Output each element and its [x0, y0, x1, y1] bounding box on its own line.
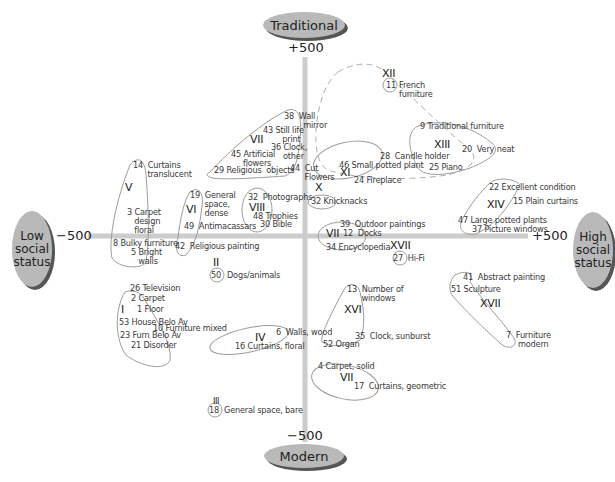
item-18-number: 18 — [209, 406, 219, 415]
pole-modern-label: Modern — [280, 449, 329, 464]
cluster-label-xiii: XIII — [434, 139, 450, 150]
item-12-label: 12 Docks — [343, 229, 382, 238]
item-24-label: 24 Fireplace — [354, 176, 401, 185]
cluster-label-xvii-right: XVII — [480, 298, 500, 309]
item-30-label: 30 Bible — [260, 220, 292, 229]
item-34-label: 34 Encyclopedia — [326, 243, 390, 252]
pole-modern: Modern — [264, 444, 344, 468]
item-41-label: 41 Abstract painting — [463, 273, 545, 282]
cluster-label-xiv: XIV — [487, 199, 504, 210]
item-42-label: 42 Religious painting — [175, 242, 259, 251]
pole-high-line2: social — [576, 244, 610, 257]
axis-value-left: −500 — [56, 228, 92, 243]
item-1-label: 1 Floor — [137, 305, 164, 314]
cluster-label-xvi: XVI — [344, 304, 361, 315]
item-35-label: 35 Clock, sunburst — [355, 332, 430, 341]
cluster-label-vii-upper: VII — [250, 134, 263, 145]
item-26-label: 26 Television — [130, 284, 180, 293]
pole-low-line1: Low — [20, 230, 44, 243]
item-16-label: 16 Curtains, floral — [235, 342, 304, 351]
item-37-label: 37 Picture windows — [472, 225, 548, 234]
item-5-label: 5 Bright walls — [131, 248, 162, 266]
item-46-label: 46 Small potted plant — [339, 161, 424, 170]
item-13-label: 13 Number of windows — [347, 285, 403, 303]
item-11-number: 11 — [386, 81, 396, 90]
pole-high-line1: High — [579, 231, 607, 244]
cluster-label-ii: II — [213, 257, 219, 268]
cluster-label-v: V — [125, 182, 132, 193]
item-49-label: 49 Antimacassars — [184, 222, 256, 231]
item-11-label: French furniture — [399, 81, 433, 99]
item-36-label: 36 Clock, other — [271, 143, 307, 161]
item-25-label: 25 Piano — [429, 163, 463, 172]
pole-traditional-label: Traditional — [270, 18, 338, 33]
item-29-label: 29 Religious objects — [214, 166, 294, 175]
item-17-label: 17 Curtains, geometric — [354, 382, 446, 391]
cluster-label-vii-center: VII — [326, 228, 339, 239]
cluster-label-xvii-center: XVII — [390, 240, 410, 251]
item-50-label: Dogs/animals — [227, 271, 280, 280]
item-51-label: 51 Sculpture — [451, 285, 501, 294]
item-52-label: 52 Organ — [323, 340, 360, 349]
item-6-label: 6 Walls, wood — [276, 328, 332, 337]
item-20-label: 20 Very neat — [462, 145, 514, 154]
item-15-label: 15 Plain curtains — [513, 197, 578, 206]
pole-low-line2: social — [15, 243, 49, 256]
item-32-photographs-label: 32 Photographs — [248, 193, 312, 202]
item-21-label: 21 Disorder — [131, 341, 177, 350]
item-19-label: 19 General space, dense — [190, 191, 236, 218]
pole-high-social-status: High social status — [573, 212, 613, 288]
item-3-label: 3 Carpet design floral — [127, 208, 161, 235]
item-32-knicknacks-label: 32 Knicknacks — [311, 197, 367, 206]
cluster-label-x: X — [315, 182, 322, 193]
correspondence-map — [0, 0, 615, 482]
cluster-label-vii-lower: VII — [340, 372, 353, 383]
pole-low-social-status: Low social status — [12, 211, 52, 287]
item-9-label: 9 Traditional furniture — [420, 122, 504, 131]
item-50-number: 50 — [211, 271, 221, 280]
cluster-label-xii: XII — [382, 68, 395, 79]
item-23-label: 23 Furn Belo Av — [120, 331, 181, 340]
axis-value-top: +500 — [288, 40, 324, 55]
item-14-label: 14 Curtains translucent — [133, 161, 192, 179]
item-7-label: 7 Furniture modern — [506, 331, 551, 349]
pole-high-line3: status — [575, 257, 612, 270]
pole-traditional: Traditional — [263, 12, 345, 38]
item-18-label: General space, bare — [224, 406, 303, 415]
item-2-label: 2 Carpet — [131, 294, 165, 303]
item-44-label: 44 Cut Flowers — [290, 164, 334, 182]
cluster-label-i: I — [121, 304, 124, 315]
pole-low-line3: status — [14, 256, 51, 269]
item-22-label: 22 Excellent condition — [489, 183, 575, 192]
item-27-label: 27 Hi-Fi — [393, 254, 425, 263]
axis-value-bottom: −500 — [287, 428, 323, 443]
item-4-label: 4 Carpet, solid — [318, 362, 375, 371]
